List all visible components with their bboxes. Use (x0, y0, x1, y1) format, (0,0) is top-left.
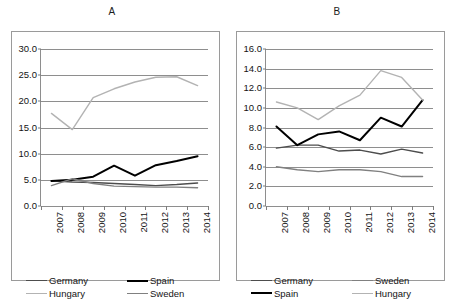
panel-a-x-tickmark (208, 206, 209, 210)
panel-b-legend-label: Spain (274, 289, 298, 299)
panel-b-legend-item-hungary[interactable]: Hungary (352, 289, 451, 299)
panel-a-x-tickmark (145, 206, 146, 210)
chart-panel-a: A 0.05.010.015.020.025.030.0200720082009… (2, 0, 222, 291)
panel-b-x-tickmark (266, 206, 267, 210)
panel-b-series-layer (266, 49, 433, 206)
panel-b-legend-item-sweden[interactable]: Sweden (352, 276, 451, 286)
panel-a-y-tick-label: 5.0 (24, 175, 37, 185)
panel-b-x-tickmark (329, 206, 330, 210)
panel-b-legend-label: Sweden (375, 276, 409, 286)
panel-a-x-tick-label: 2014 (202, 212, 212, 233)
panel-b-plot-area: 0.02.04.06.08.010.012.014.016.0200720082… (266, 49, 433, 206)
panel-a-x-tickmark (187, 206, 188, 210)
panel-a-line-germany (51, 181, 197, 186)
panel-b-x-tick-label: 2013 (406, 212, 416, 233)
legend-line-icon (251, 280, 272, 281)
legend-line-icon (26, 293, 47, 294)
panel-b-y-tick-label: 2.0 (249, 182, 262, 192)
panel-b-y-tick-label: 10.0 (244, 103, 263, 113)
panel-b-line-hungary (276, 71, 422, 120)
panel-b-y-tick-label: 12.0 (244, 84, 263, 94)
panel-a-series-layer (41, 49, 208, 206)
panel-b-legend-label: Hungary (375, 289, 411, 299)
panel-b-x-tickmark (433, 206, 434, 210)
panel-a-x-tick-label: 2010 (118, 212, 128, 233)
panel-b-x-tickmark (308, 206, 309, 210)
panel-b-x-tickmark (370, 206, 371, 210)
panel-a-legend-label: Germany (49, 276, 88, 286)
panel-a-legend-label: Spain (150, 276, 174, 286)
panel-b-legend-label: Germany (274, 276, 313, 286)
panel-a-x-tickmark (166, 206, 167, 210)
panel-a-x-tick-label: 2008 (76, 212, 86, 233)
panel-b-x-tickmark (412, 206, 413, 210)
panel-b-x-tick-label: 2014 (427, 212, 437, 233)
panel-a-x-tickmark (83, 206, 84, 210)
panel-b-line-sweden (276, 167, 422, 177)
panel-b-plot-inner: 0.02.04.06.08.010.012.014.016.0200720082… (266, 49, 433, 206)
panel-a-y-tick-label: 0.0 (24, 201, 37, 211)
panel-a-x-tick-label: 2012 (160, 212, 170, 233)
panel-a-legend-item-hungary[interactable]: Hungary (26, 289, 125, 299)
panel-b-y-tick-label: 14.0 (244, 64, 263, 74)
panel-b-x-tickmark (391, 206, 392, 210)
panel-a-x-tick-label: 2007 (55, 212, 65, 233)
legend-line-icon (26, 280, 47, 281)
panel-a-legend: GermanySpainHungarySweden (26, 276, 226, 298)
panel-a-x-tick-label: 2011 (139, 212, 149, 232)
legend-line-icon (127, 280, 148, 282)
panel-a-x-tick-label: 2009 (97, 212, 107, 233)
panel-b-y-tick-label: 6.0 (249, 142, 262, 152)
panel-a-legend-item-sweden[interactable]: Sweden (127, 289, 226, 299)
panel-a-title: A (2, 6, 222, 17)
panel-a-plot-area: 0.05.010.015.020.025.030.020072008200920… (41, 49, 208, 206)
panel-b-legend-item-spain[interactable]: Spain (251, 289, 350, 299)
legend-line-icon (127, 293, 148, 294)
panel-a-x-tickmark (104, 206, 105, 210)
panel-a-x-tick-label: 2013 (181, 212, 191, 233)
panel-a-frame: 0.05.010.015.020.025.030.020072008200920… (11, 31, 220, 281)
panel-b-x-tick-label: 2012 (385, 212, 395, 233)
panel-a-legend-item-germany[interactable]: Germany (26, 276, 125, 286)
panel-b-y-tick-label: 8.0 (249, 123, 262, 133)
panel-a-legend-label: Sweden (150, 289, 184, 299)
panel-b-x-tick-label: 2007 (280, 212, 290, 233)
panel-a-x-tickmark (62, 206, 63, 210)
legend-line-icon (352, 280, 373, 281)
panel-a-y-tick-label: 15.0 (19, 123, 38, 133)
panel-b-x-tick-label: 2009 (322, 212, 332, 233)
panel-b-title: B (227, 6, 447, 17)
panel-b-legend-item-germany[interactable]: Germany (251, 276, 350, 286)
panel-a-legend-label: Hungary (49, 289, 85, 299)
panel-b-frame: 0.02.04.06.08.010.012.014.016.0200720082… (236, 31, 445, 281)
panel-b-x-tickmark (287, 206, 288, 210)
panel-b-x-tick-label: 2011 (364, 212, 374, 232)
panel-a-y-tick-label: 25.0 (19, 70, 38, 80)
panel-b-x-tick-label: 2010 (343, 212, 353, 233)
panel-a-y-tick-label: 10.0 (19, 149, 38, 159)
panel-a-x-tickmark (41, 206, 42, 210)
panel-a-y-tick-label: 20.0 (19, 97, 38, 107)
panel-a-x-tickmark (125, 206, 126, 210)
chart-panel-b: B 0.02.04.06.08.010.012.014.016.02007200… (227, 0, 447, 291)
panel-a-line-hungary (51, 77, 197, 130)
panel-b-x-tickmark (350, 206, 351, 210)
panel-a-legend-item-spain[interactable]: Spain (127, 276, 226, 286)
panel-a-line-spain (51, 156, 197, 181)
panel-b-line-germany (276, 145, 422, 154)
panel-a-y-tick-label: 30.0 (19, 44, 38, 54)
panel-b-y-tick-label: 0.0 (249, 201, 262, 211)
panel-b-y-tick-label: 16.0 (244, 44, 263, 54)
legend-line-icon (251, 292, 272, 294)
panel-a-plot-inner: 0.05.010.015.020.025.030.020072008200920… (41, 49, 208, 206)
panel-b-x-tick-label: 2008 (301, 212, 311, 233)
legend-line-icon (352, 293, 373, 294)
panel-b-line-spain (276, 100, 422, 145)
panel-b-y-tick-label: 4.0 (249, 162, 262, 172)
panel-b-legend: GermanySwedenSpainHungary (251, 276, 451, 298)
